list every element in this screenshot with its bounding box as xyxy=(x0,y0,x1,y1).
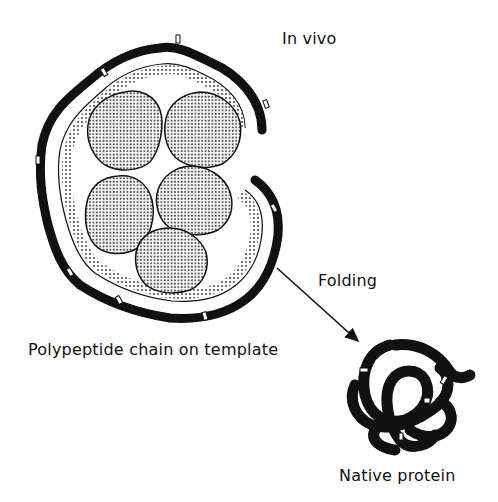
native-protein xyxy=(352,345,470,450)
template-particle-4 xyxy=(157,166,232,235)
diagram-canvas xyxy=(0,0,498,502)
protein-folding-diagram: In vivo Folding Polypeptide chain on tem… xyxy=(0,0,498,502)
residue-marker xyxy=(36,156,40,164)
native-protein-label: Native protein xyxy=(339,466,456,485)
residue-marker xyxy=(176,35,180,43)
template-particle-2 xyxy=(165,92,241,167)
residue-marker xyxy=(399,433,403,440)
template-assembly xyxy=(36,35,278,320)
template-particles xyxy=(86,91,241,293)
folding-label: Folding xyxy=(318,271,377,290)
template-label: Polypeptide chain on template xyxy=(28,340,278,359)
in-vivo-label: In vivo xyxy=(282,29,337,48)
template-particle-5 xyxy=(136,228,208,293)
residue-marker xyxy=(424,398,430,403)
residue-marker xyxy=(360,368,368,372)
residue-marker xyxy=(263,100,269,109)
